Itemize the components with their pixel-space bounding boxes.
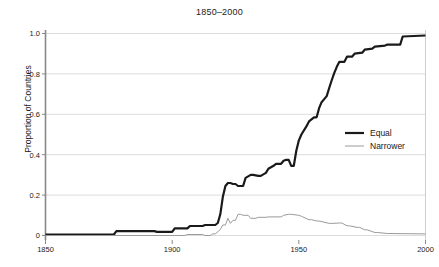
- x-tick-label: 1850: [37, 245, 54, 254]
- y-tick-labels: 00.20.40.60.81.0: [30, 29, 40, 240]
- y-tick-label: 0.8: [30, 70, 40, 79]
- series-line-narrower: [46, 214, 426, 235]
- x-tick-label: 1950: [290, 245, 307, 254]
- x-tick-labels: 1850190019502000: [37, 245, 434, 254]
- chart-page: 1850–2000 Proportion of Countries 00.20.…: [0, 0, 439, 267]
- legend-label-equal: Equal: [370, 128, 392, 138]
- chart-plot: 00.20.40.60.81.0 1850190019502000 EqualN…: [0, 0, 439, 267]
- x-tick-marks: [46, 240, 426, 244]
- y-tick-label: 1.0: [30, 29, 40, 38]
- series-line-equal: [46, 36, 426, 235]
- gridlines: [46, 34, 426, 236]
- x-tick-label: 2000: [417, 245, 434, 254]
- x-tick-label: 1900: [164, 245, 181, 254]
- y-tick-label: 0.2: [30, 191, 40, 200]
- legend-label-narrower: Narrower: [370, 141, 405, 151]
- series-lines: [46, 36, 426, 236]
- y-tick-label: 0.4: [30, 151, 40, 160]
- y-tick-label: 0.6: [30, 110, 40, 119]
- chart-legend: EqualNarrower: [345, 128, 405, 151]
- y-tick-label: 0: [36, 231, 40, 240]
